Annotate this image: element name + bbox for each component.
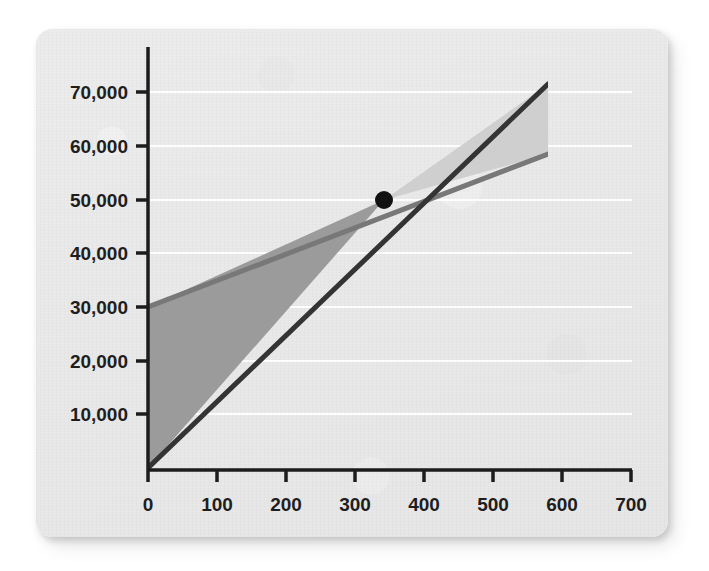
figure-root: 70,000 60,000 50,000 40,000 30,000 20,00… [0,0,709,571]
x-axis-ticks [148,470,631,482]
y-tick-label: 40,000 [70,243,128,264]
y-tick-label: 30,000 [70,297,128,318]
y-axis-ticks [136,92,148,414]
x-tick-label: 500 [477,494,509,515]
x-tick-label: 600 [546,494,578,515]
break-even-chart: 70,000 60,000 50,000 40,000 30,000 20,00… [36,29,668,537]
y-axis-tick-labels: 70,000 60,000 50,000 40,000 30,000 20,00… [70,82,128,425]
total-revenue-line [148,84,548,468]
y-tick-label: 20,000 [70,351,128,372]
plot-area [148,84,632,468]
x-tick-label: 0 [143,494,154,515]
y-tick-label: 60,000 [70,136,128,157]
y-tick-label: 70,000 [70,82,128,103]
x-tick-label: 400 [408,494,440,515]
y-tick-label: 50,000 [70,190,128,211]
x-tick-label: 200 [270,494,302,515]
profit-region [384,84,548,200]
x-tick-label: 700 [615,494,647,515]
total-cost-line [148,154,548,307]
y-tick-label: 10,000 [70,404,128,425]
chart-card: 70,000 60,000 50,000 40,000 30,000 20,00… [36,29,668,537]
break-even-point [375,191,393,209]
x-tick-label: 300 [339,494,371,515]
loss-region [148,200,384,468]
axes [148,47,632,470]
x-tick-label: 100 [201,494,233,515]
x-axis-tick-labels: 0 100 200 300 400 500 600 700 [143,494,647,515]
data-lines [148,84,548,468]
